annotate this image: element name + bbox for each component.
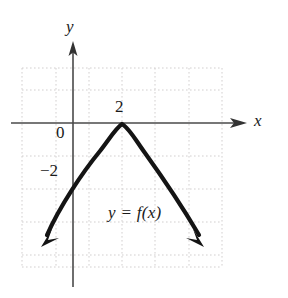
equation-label: y = f(x) <box>108 204 162 221</box>
graph-canvas <box>0 0 288 298</box>
y-intercept-label: −2 <box>40 162 58 179</box>
vertex-value-label: 2 <box>115 98 124 115</box>
function-graph-figure: y x 2 0 −2 y = f(x) <box>0 0 288 298</box>
x-axis-label: x <box>254 112 262 129</box>
y-axis-label: y <box>66 18 74 35</box>
x-axis <box>11 118 247 128</box>
y-axis <box>69 41 78 287</box>
origin-label: 0 <box>56 124 65 141</box>
